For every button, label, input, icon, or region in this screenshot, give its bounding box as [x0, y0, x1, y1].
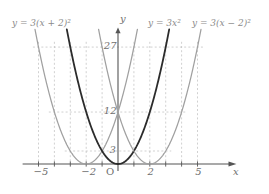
curve-label-right: y = 3(x − 2)² [192, 18, 251, 28]
y-axis-label: y [120, 13, 126, 24]
x-tick-label-2: 2 [148, 166, 154, 177]
y-tick-label-3: 3 [109, 144, 115, 155]
parabola-figure: y = 3(x + 2)² y = 3x² y = 3(x − 2)² y x … [0, 0, 269, 194]
x-tick-label-−5: −5 [34, 166, 49, 177]
curve-label-left: y = 3(x + 2)² [12, 18, 71, 28]
curve-label-middle: y = 3x² [148, 18, 181, 28]
y-tick-label-12: 12 [104, 105, 117, 116]
plot-canvas [0, 0, 269, 194]
x-tick-label-−2: −2 [81, 166, 96, 177]
x-axis-label: x [233, 166, 239, 177]
y-axis-arrow [115, 28, 120, 34]
y-tick-label-27: 27 [104, 40, 117, 51]
x-tick-label-5: 5 [195, 166, 201, 177]
origin-label: O [106, 166, 114, 177]
